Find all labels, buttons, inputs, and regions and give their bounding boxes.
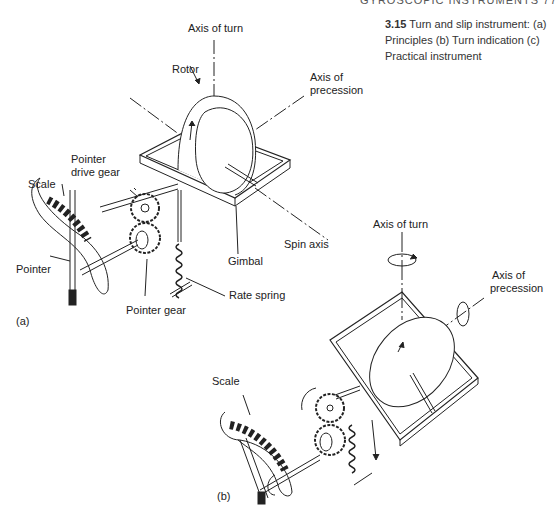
scale-marks	[48, 200, 88, 240]
label-pointer: Pointer	[16, 263, 51, 276]
label-spin-axis: Spin axis	[284, 238, 329, 251]
panel-label-b: (b)	[217, 490, 230, 503]
label-scale-a: Scale	[28, 178, 56, 191]
label-pointer-gear: Pointer gear	[126, 304, 186, 317]
label-rotor: Rotor	[172, 63, 199, 76]
label-axis-of-turn-a: Axis of turn	[188, 22, 243, 35]
turn-slip-diagram	[0, 0, 559, 530]
label-rate-spring: Rate spring	[229, 289, 285, 302]
label-scale-b: Scale	[212, 375, 240, 388]
label-axis-of-precession-a-1: Axis of	[310, 71, 343, 84]
label-gimbal: Gimbal	[228, 255, 263, 268]
label-axis-of-turn-b: Axis of turn	[373, 218, 428, 231]
label-axis-of-precession-b-2: precession	[490, 282, 543, 295]
label-pointer-drive-gear-1: Pointer	[71, 153, 106, 166]
pointer	[70, 190, 75, 305]
pointer-gear	[130, 223, 160, 253]
rate-spring-b	[349, 425, 355, 473]
label-pointer-drive-gear-2: drive gear	[71, 166, 120, 179]
label-axis-of-precession-b-1: Axis of	[492, 269, 525, 282]
panel-label-a: (a)	[16, 315, 29, 328]
figure-b-drawing	[220, 232, 484, 504]
label-axis-of-precession-a-2: precession	[310, 84, 363, 97]
pointer-drive-gear	[131, 194, 159, 222]
